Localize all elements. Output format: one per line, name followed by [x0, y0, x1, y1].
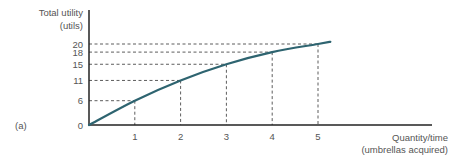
- axes: [89, 10, 433, 126]
- total-utility-curve: [89, 42, 330, 125]
- y-tick-label: 15: [72, 59, 83, 70]
- y-tick-labels: 0611151820: [72, 39, 83, 131]
- dashed-guide-lines: [89, 44, 318, 125]
- x-tick-label: 5: [315, 131, 320, 142]
- x-tick-label: 1: [132, 131, 137, 142]
- x-axis-title-line2: (umbrellas acquired): [361, 144, 448, 155]
- y-axis-title-line2: (utils): [60, 20, 83, 31]
- y-tick-label: 20: [72, 39, 83, 50]
- x-tick-label: 2: [178, 131, 183, 142]
- y-axis-title-line1: Total utility: [39, 7, 84, 18]
- y-tick-label: 6: [78, 95, 83, 106]
- y-tick-label: 11: [73, 75, 83, 86]
- panel-label: (a): [15, 120, 27, 131]
- x-tick-labels: 12345: [132, 131, 320, 142]
- x-tick-label: 3: [224, 131, 229, 142]
- y-tick-label: 0: [78, 120, 83, 131]
- x-axis-title-line1: Quantity/time: [392, 132, 448, 143]
- x-tick-label: 4: [270, 131, 275, 142]
- total-utility-chart: 0611151820 12345 Total utility (utils) Q…: [0, 0, 450, 163]
